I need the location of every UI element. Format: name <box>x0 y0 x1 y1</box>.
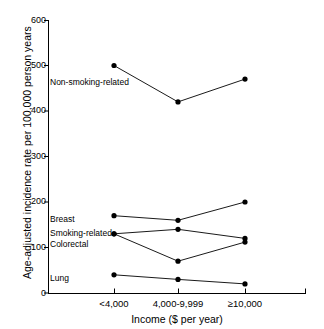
x-tick-marks <box>115 289 306 294</box>
series-line <box>114 202 245 220</box>
data-point <box>242 77 247 82</box>
data-point <box>175 277 180 282</box>
series-non-smoking-related <box>111 63 247 105</box>
series-smoking-related <box>111 227 247 241</box>
series-lung <box>111 272 247 286</box>
data-point <box>242 281 247 286</box>
data-point <box>242 240 247 245</box>
y-tick-marks <box>44 21 49 294</box>
data-point <box>111 63 116 68</box>
data-point <box>111 231 116 236</box>
series-line <box>114 234 245 261</box>
data-point <box>175 99 180 104</box>
plot-area <box>0 0 324 329</box>
series-line <box>114 66 245 102</box>
data-point <box>111 272 116 277</box>
data-point <box>242 199 247 204</box>
data-point <box>111 213 116 218</box>
data-point <box>175 227 180 232</box>
data-point <box>175 218 180 223</box>
data-point <box>175 259 180 264</box>
chart-figure: Age-adjusted incidence rate per 100,000 … <box>0 0 324 329</box>
series-breast <box>111 199 247 223</box>
